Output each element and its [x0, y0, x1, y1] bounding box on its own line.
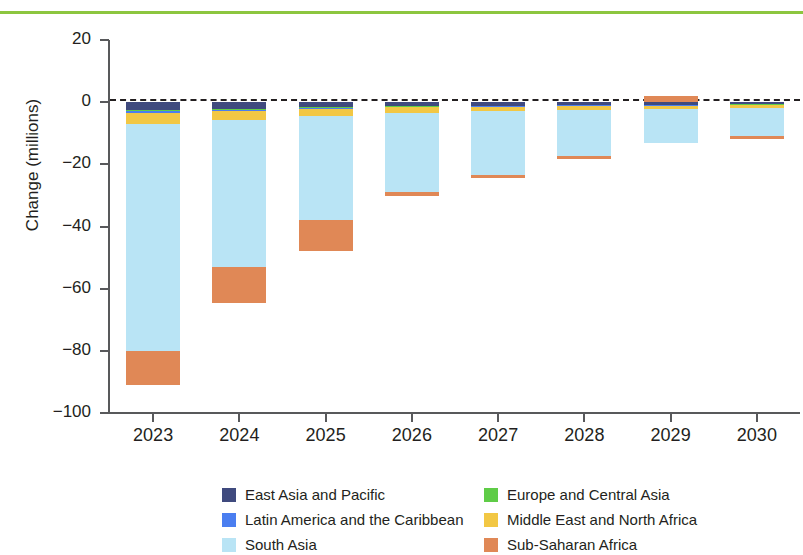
legend-label: South Asia	[245, 536, 317, 553]
x-tick-label: 2027	[453, 425, 543, 446]
x-tick-label: 2026	[367, 425, 457, 446]
bar-2024[interactable]	[212, 40, 266, 413]
y-tick-mark	[100, 226, 109, 228]
y-tick-mark	[100, 412, 109, 414]
bar-segment	[212, 111, 266, 120]
bar-segment	[471, 175, 525, 178]
bar-segment	[126, 102, 180, 110]
x-tick-mark	[152, 414, 154, 422]
x-tick-mark	[325, 414, 327, 422]
legend-swatch-icon	[222, 488, 236, 502]
x-tick-mark	[670, 414, 672, 422]
bar-segment	[126, 113, 180, 124]
x-tick-mark	[583, 414, 585, 422]
x-tick-label: 2024	[194, 425, 284, 446]
legend-item[interactable]: Latin America and the Caribbean	[222, 511, 484, 528]
top-green-rule	[0, 11, 803, 14]
chart-figure: Change (millions) 200−20−40−60−80−100 20…	[0, 0, 803, 555]
bar-segment	[644, 96, 698, 102]
plot-area	[110, 40, 800, 413]
bar-segment	[126, 124, 180, 351]
legend-item[interactable]: Europe and Central Asia	[484, 486, 784, 503]
y-tick-label: 0	[21, 92, 91, 109]
bar-2027[interactable]	[471, 40, 525, 413]
y-tick-mark	[100, 288, 109, 290]
y-tick-label: −20	[21, 154, 91, 171]
legend-label: East Asia and Pacific	[245, 486, 385, 503]
y-tick-label: −100	[21, 403, 91, 420]
y-tick-mark	[100, 350, 109, 352]
x-tick-mark	[238, 414, 240, 422]
x-tick-mark	[497, 414, 499, 422]
bar-segment	[385, 113, 439, 192]
x-tick-mark	[756, 414, 758, 422]
bar-2030[interactable]	[730, 40, 784, 413]
legend-label: Middle East and North Africa	[507, 511, 697, 528]
x-tick-label: 2025	[281, 425, 371, 446]
legend-item[interactable]: South Asia	[222, 536, 484, 553]
y-tick-label: 20	[21, 30, 91, 47]
x-tick-label: 2023	[108, 425, 198, 446]
y-tick-mark	[100, 163, 109, 165]
bar-segment	[212, 267, 266, 303]
bar-segment	[730, 108, 784, 136]
x-tick-label: 2029	[626, 425, 716, 446]
legend-label: Latin America and the Caribbean	[245, 511, 463, 528]
bar-2028[interactable]	[557, 40, 611, 413]
x-tick-mark	[411, 414, 413, 422]
legend-item[interactable]: Middle East and North Africa	[484, 511, 784, 528]
bar-2023[interactable]	[126, 40, 180, 413]
y-tick-label: −60	[21, 279, 91, 296]
legend-swatch-icon	[484, 488, 498, 502]
bar-segment	[126, 351, 180, 385]
bar-segment	[471, 111, 525, 175]
legend-swatch-icon	[484, 513, 498, 527]
x-tick-label: 2030	[712, 425, 802, 446]
bar-segment	[557, 110, 611, 156]
legend-item[interactable]: Sub-Saharan Africa	[484, 536, 784, 553]
legend-swatch-icon	[222, 538, 236, 552]
bar-segment	[557, 156, 611, 159]
bar-2025[interactable]	[299, 40, 353, 413]
chart-legend: East Asia and PacificEurope and Central …	[222, 482, 782, 555]
legend-label: Europe and Central Asia	[507, 486, 670, 503]
bar-segment	[644, 109, 698, 143]
y-tick-mark	[100, 101, 109, 103]
legend-item[interactable]: East Asia and Pacific	[222, 486, 484, 503]
bar-2026[interactable]	[385, 40, 439, 413]
y-tick-label: −40	[21, 217, 91, 234]
y-tick-label: −80	[21, 341, 91, 358]
legend-swatch-icon	[222, 513, 236, 527]
bar-2029[interactable]	[644, 40, 698, 413]
legend-swatch-icon	[484, 538, 498, 552]
y-tick-mark	[100, 39, 109, 41]
bar-segment	[212, 120, 266, 267]
bar-segment	[730, 136, 784, 139]
bar-segment	[299, 220, 353, 251]
bar-segment	[212, 102, 266, 109]
bar-segment	[299, 109, 353, 116]
legend-label: Sub-Saharan Africa	[507, 536, 637, 553]
bar-segment	[299, 116, 353, 220]
bar-segment	[385, 192, 439, 195]
x-tick-label: 2028	[539, 425, 629, 446]
